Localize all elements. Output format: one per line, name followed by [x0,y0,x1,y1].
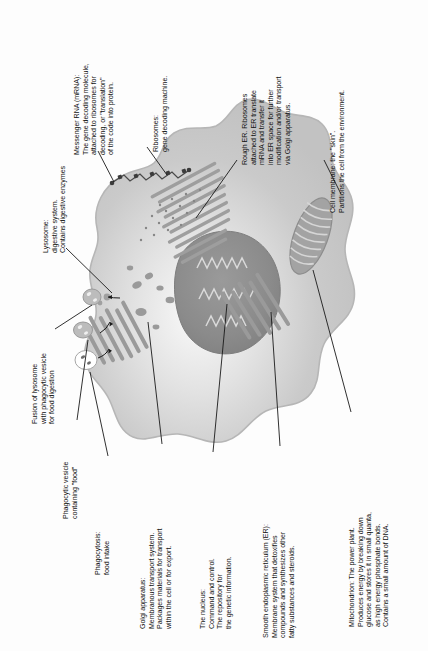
label-mitochondrion: Mitochondrion: The power plant. Produces… [348,512,391,627]
label-lysosome: Lysosome: digestive system. Contains dig… [42,166,68,253]
cell-diagram-canvas: Messenger RNA (mRNA): The gene decoding … [0,0,428,651]
label-phagocytic-vesicle: Phagocytic vesicle containing "food" [62,462,79,519]
label-rough-er: Rough ER. Ribosomes attached to ER trans… [241,77,293,165]
label-golgi: Golgi apparatus: Membranous transport sy… [139,528,173,629]
leader-mrna [98,151,114,182]
phagocytic-vesicle-body [83,289,101,305]
label-phagocytosis: Phagocytosis: food intake [94,531,111,575]
label-smooth-er: Smooth endoplasmic reticulum (ER): Membr… [262,524,296,638]
label-cell-membrane: Cell membrane: the "skin". Partitions th… [329,90,346,213]
label-nucleus: The nucleus: Command and control. The re… [199,556,233,629]
label-ribosomes: Ribosomes: gene decoding machine. [152,76,169,152]
label-fusion: Fusion of lysosome with phagocytic vesic… [31,353,57,424]
label-messenger-rna: Messenger RNA (mRNA): The gene decoding … [73,63,116,155]
